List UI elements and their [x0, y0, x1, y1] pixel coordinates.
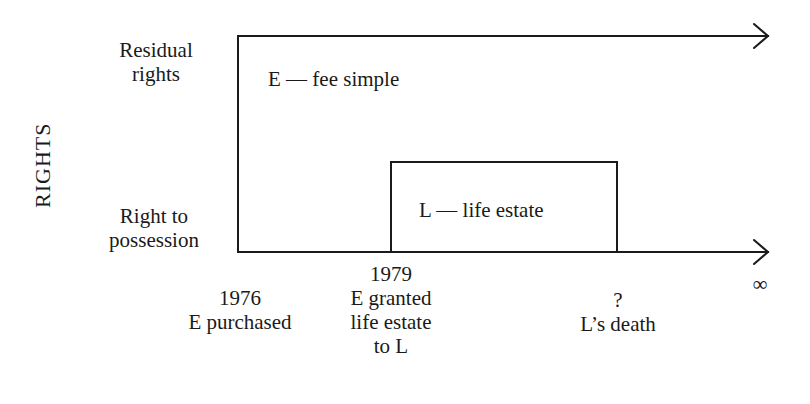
- row-label-residual-rights: Residual rights: [100, 38, 212, 86]
- axis-title-rights: RIGHTS: [30, 123, 56, 208]
- life-estate-label: L — life estate: [419, 198, 544, 222]
- property-rights-diagram: RIGHTS Residual rights Right to possessi…: [0, 0, 810, 404]
- event-description: L’s death: [550, 312, 686, 336]
- infinity-symbol: ∞: [740, 272, 780, 296]
- event-year: 1979: [320, 262, 462, 286]
- event-description: life estate: [320, 310, 462, 334]
- fee-simple-label: E — fee simple: [268, 67, 399, 91]
- event-description: to L: [320, 334, 462, 358]
- event-year: 1976: [160, 286, 320, 310]
- event-year: ?: [550, 288, 686, 312]
- timeline-event-1979: 1979 E granted life estate to L: [320, 262, 462, 358]
- timeline-event-1976: 1976 E purchased: [160, 286, 320, 334]
- row-label-line: rights: [100, 62, 212, 86]
- row-label-line: Right to: [96, 204, 212, 228]
- row-label-right-to-possession: Right to possession: [96, 204, 212, 252]
- timeline-event-infinity: ∞: [740, 272, 780, 296]
- row-label-line: Residual: [100, 38, 212, 62]
- event-description: E granted: [320, 286, 462, 310]
- timeline-event-death: ? L’s death: [550, 288, 686, 336]
- row-label-line: possession: [96, 228, 212, 252]
- event-description: E purchased: [160, 310, 320, 334]
